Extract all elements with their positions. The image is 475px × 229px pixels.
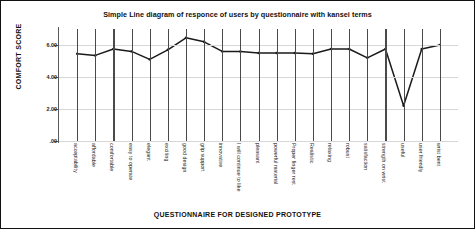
x-axis-category-label: I will continue to like	[236, 143, 242, 191]
y-axis-title: COMFORT SCORE	[15, 7, 22, 107]
x-axis-category-labels: acceptabilityaffordablecomfortableeasy t…	[59, 143, 458, 203]
x-axis-category-label: easy to operate	[128, 143, 134, 180]
x-axis-category-label: Proper finger rest	[291, 143, 297, 185]
gridline-vertical	[385, 29, 386, 141]
x-axis-category-label: pleasant	[255, 143, 261, 163]
gridline-vertical	[222, 29, 223, 141]
gridline-vertical	[240, 29, 241, 141]
gridline-vertical	[77, 29, 78, 141]
plot-area	[59, 29, 458, 141]
y-axis-tick-label: .00	[50, 138, 58, 144]
x-axis-category-label: exciting	[164, 143, 170, 161]
gridline-vertical	[150, 29, 151, 141]
x-axis-category-label: user friendly	[418, 143, 424, 173]
y-axis-tick-label: 6.00	[47, 42, 58, 48]
gridline-vertical	[132, 29, 133, 141]
chart-figure: Simple Line diagram of responce of users…	[0, 0, 475, 229]
y-axis-tick-label: 2.00	[47, 106, 58, 112]
gridline-vertical	[440, 29, 441, 141]
x-axis-category-label: powerful material	[273, 143, 279, 184]
gridline-vertical	[113, 29, 114, 141]
x-axis-title: QUESTIONNAIRE FOR DESIGNED PROTOTYPE	[1, 211, 474, 218]
gridline-vertical	[349, 29, 350, 141]
x-axis-category-label: good design	[182, 143, 188, 172]
x-axis-category-label: innovative	[218, 143, 224, 167]
gridline-vertical	[404, 29, 405, 141]
x-axis-category-label: strength on wrist	[381, 143, 387, 183]
x-axis-category-label: comfortable	[109, 143, 115, 171]
gridline-vertical	[295, 29, 296, 141]
x-axis-category-label: elegant	[146, 143, 152, 161]
x-axis-category-label: affordable	[91, 143, 97, 167]
x-axis-category-label: robust	[345, 143, 351, 158]
gridline-vertical	[259, 29, 260, 141]
gridline-vertical	[168, 29, 169, 141]
gridline-vertical	[331, 29, 332, 141]
x-axis-category-label: useful	[400, 143, 406, 157]
x-axis-category-label: grip support	[200, 143, 206, 172]
gridline-vertical	[313, 29, 314, 141]
chart-title: Simple Line diagram of responce of users…	[1, 10, 474, 19]
gridline-vertical	[367, 29, 368, 141]
gridline-vertical	[186, 29, 187, 141]
x-axis-category-label: Realistic	[309, 143, 315, 164]
y-axis-tick-label: 4.00	[47, 74, 58, 80]
y-axis-tick-labels: .002.004.006.00	[27, 29, 57, 141]
x-axis-category-label: relaxing	[327, 143, 333, 162]
gridline-vertical	[204, 29, 205, 141]
x-axis-category-label: wrist bent	[436, 143, 442, 166]
gridline-vertical	[95, 29, 96, 141]
gridline-vertical	[277, 29, 278, 141]
gridline-horizontal	[59, 141, 458, 142]
x-axis-category-label: satisfaction	[363, 143, 369, 170]
x-axis-category-label: acceptability	[73, 143, 79, 173]
gridline-vertical	[422, 29, 423, 141]
